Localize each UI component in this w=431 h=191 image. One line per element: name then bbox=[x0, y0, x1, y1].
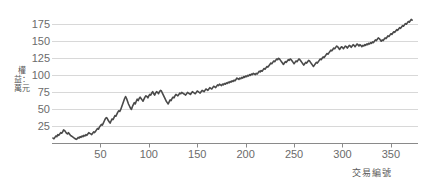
x-tick-label: 50 bbox=[94, 148, 106, 160]
x-tick-label: 300 bbox=[333, 148, 351, 160]
y-tick-label: 150 bbox=[32, 35, 50, 47]
series-line-equity bbox=[53, 19, 412, 139]
x-tick-label: 150 bbox=[188, 148, 206, 160]
chart-container: 255075100125150175 50100150200250300350 … bbox=[0, 0, 431, 191]
y-tick-label: 175 bbox=[32, 18, 50, 30]
x-axis-title: 交易編號 bbox=[352, 166, 392, 179]
equity-curve-plot bbox=[0, 0, 431, 191]
y-tick-label: 25 bbox=[38, 120, 50, 132]
y-tick-label: 50 bbox=[38, 103, 50, 115]
x-tick-label: 200 bbox=[236, 148, 254, 160]
gridlines-group bbox=[52, 25, 418, 127]
x-tick-label: 250 bbox=[285, 148, 303, 160]
x-tick-label: 100 bbox=[140, 148, 158, 160]
y-tick-label: 100 bbox=[32, 69, 50, 81]
x-tick-label: 350 bbox=[382, 148, 400, 160]
y-axis-title: 權益：萬元 bbox=[14, 66, 30, 93]
y-tick-label: 75 bbox=[38, 86, 50, 98]
x-tick-marks-group bbox=[101, 144, 392, 148]
y-axis-tick-labels: 255075100125150175 bbox=[26, 0, 50, 191]
y-tick-label: 125 bbox=[32, 52, 50, 64]
